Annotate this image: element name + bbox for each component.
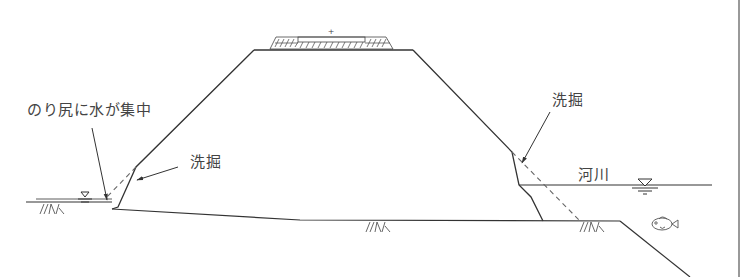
levee-body [112,50,543,221]
crest-pavement [270,37,393,49]
original-slope-dashed [105,152,580,221]
label-toe-water: のり尻に水が集中 [27,103,151,118]
ground-line [26,185,712,277]
toe-water-leader [92,128,107,200]
leader-lines [92,112,550,200]
label-river: 河川 [578,168,609,183]
scour-left-leader [137,167,178,180]
ground-hatch-icon [40,204,604,232]
fish-icon [652,217,678,230]
scour-right-leader [522,112,550,163]
label-scour-left: 洗掘 [190,155,221,170]
water-level-right-icon [632,179,658,194]
water-level-left-icon [78,192,92,202]
levee-cross-section-diagram: + [0,0,741,277]
crest-mark: + [328,27,335,36]
label-scour-right: 洗掘 [552,93,583,108]
